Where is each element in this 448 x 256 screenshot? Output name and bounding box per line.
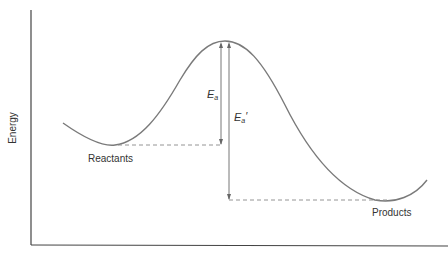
products-label: Products bbox=[372, 207, 411, 218]
ea-label: Ea bbox=[207, 88, 218, 101]
x-axis bbox=[31, 245, 448, 246]
reactants-label: Reactants bbox=[88, 153, 133, 164]
energy-diagram: Energy Reactants Products Ea Ea′ bbox=[0, 0, 448, 256]
ea-prime-arrowhead-bottom bbox=[227, 194, 231, 200]
ea-arrowhead-bottom bbox=[219, 139, 223, 145]
ea-prime-arrowhead-top bbox=[227, 42, 231, 48]
y-axis-label: Energy bbox=[7, 112, 18, 144]
ea-prime-label: Ea′ bbox=[234, 110, 248, 124]
ea-arrowhead-top bbox=[219, 42, 223, 48]
